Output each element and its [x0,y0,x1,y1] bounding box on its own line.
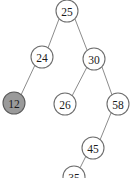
tree-node[interactable]: 26 [54,93,76,115]
node-label: 58 [112,99,124,111]
tree-node[interactable]: 25 [56,0,78,22]
tree-node[interactable]: 12 [3,92,25,114]
tree-node[interactable]: 45 [82,137,104,159]
tree-edge [102,67,112,95]
tree-node[interactable]: 58 [107,93,129,115]
tree-edge [100,113,111,140]
node-label: 30 [88,54,100,66]
node-label: 24 [36,52,48,64]
tree-node[interactable]: 35 [63,166,85,178]
tree-edge [75,19,87,50]
tree-edge [21,65,35,95]
tree-svg-canvas: 2524301226584535 [0,0,132,178]
node-label: 25 [61,6,73,18]
node-label: 45 [87,143,99,155]
node-label: 26 [59,99,71,111]
node-label: 35 [68,172,80,179]
tree-edge [48,19,59,48]
node-label: 12 [8,98,20,110]
tree-node[interactable]: 24 [31,46,53,68]
binary-tree-diagram: 2524301226584535 [0,0,132,178]
tree-edge [72,67,87,96]
tree-node[interactable]: 30 [83,48,105,70]
